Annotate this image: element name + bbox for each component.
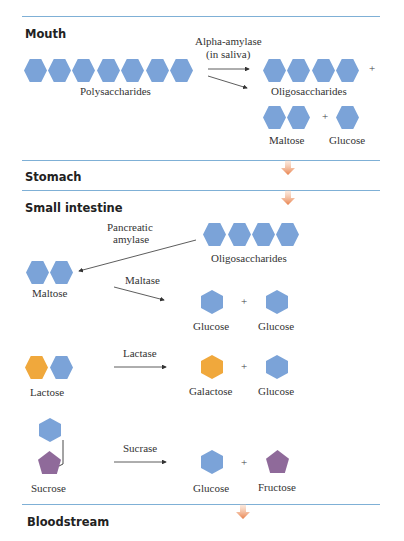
label-maltose: Maltose	[269, 134, 304, 146]
plus-sign: +	[369, 62, 375, 74]
label-lactose: Lactose	[30, 386, 64, 398]
label-oligosaccharides-intestine: Oligosaccharides	[211, 252, 287, 264]
section-title-bloodstream: Bloodstream	[27, 515, 109, 529]
down-arrow-icon	[281, 160, 295, 176]
label-glucose: Glucose	[258, 320, 294, 332]
plus-sign: +	[322, 110, 328, 122]
divider-intestine-bloodstream	[22, 504, 380, 505]
plus-sign: +	[241, 360, 247, 372]
enzyme-sucrase: Sucrase	[123, 442, 157, 454]
plus-sign: +	[241, 295, 247, 307]
section-title-stomach: Stomach	[25, 170, 81, 184]
enzyme-pancreatic-amylase-2: amylase	[113, 233, 149, 245]
enzyme-lactase: Lactase	[123, 347, 157, 359]
label-galactose: Galactose	[189, 385, 232, 397]
divider-stomach-intestine	[22, 190, 380, 191]
label-maltose-intestine: Maltose	[32, 287, 67, 299]
down-arrow-icon	[281, 190, 295, 206]
enzyme-pancreatic-amylase: Pancreatic	[107, 221, 153, 233]
label-oligosaccharides: Oligosaccharides	[271, 85, 347, 97]
plus-sign: +	[241, 456, 247, 468]
label-glucose: Glucose	[329, 134, 365, 146]
label-glucose: Glucose	[193, 482, 229, 494]
label-glucose: Glucose	[258, 385, 294, 397]
down-arrow-icon	[236, 504, 250, 520]
label-glucose: Glucose	[193, 320, 229, 332]
section-title-small-intestine: Small intestine	[25, 201, 123, 215]
enzyme-maltase: Maltase	[125, 274, 160, 286]
label-fructose: Fructose	[258, 481, 296, 493]
divider-mouth-stomach	[22, 160, 380, 161]
label-sucrose: Sucrose	[31, 482, 66, 494]
